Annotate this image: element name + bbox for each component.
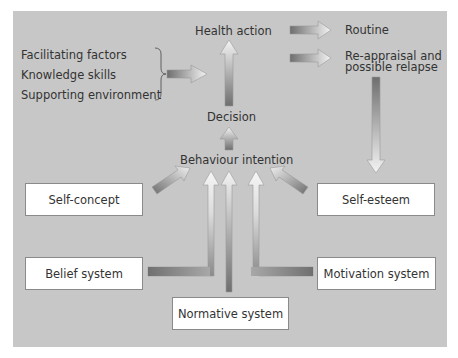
belief-connector-bar [148,267,210,276]
label-reappraisal-line2: possible relapse [345,60,438,74]
belief-system-label: Belief system [45,267,123,281]
factor-supporting-environment: Supporting environment [21,88,161,102]
factor-knowledge-skills: Knowledge skills [21,68,116,82]
box-motivation-system: Motivation system [317,257,436,290]
box-normative-system: Normative system [172,297,289,330]
label-routine: Routine [345,23,389,37]
box-self-esteem: Self-esteem [317,183,435,216]
arrow-self-esteem-to-intention [270,166,308,194]
arrow-to-routine [290,21,331,39]
motivation-connector-bar [251,267,313,276]
arrow-normative-system-to-intention [221,171,237,292]
self-esteem-label: Self-esteem [342,193,410,207]
self-concept-label: Self-concept [49,193,120,207]
label-behaviour-intention: Behaviour intention [180,153,293,167]
arrow-self-concept-to-intention [152,166,190,194]
box-self-concept: Self-concept [25,183,143,216]
arrow-factors-to-health-action [167,65,207,83]
motivation-system-label: Motivation system [324,267,430,281]
arrow-reappraisal-to-self-esteem [367,77,385,173]
arrow-decision-to-health-action [220,40,238,106]
normative-system-label: Normative system [178,307,283,321]
label-health-action: Health action [195,24,272,38]
label-decision: Decision [207,110,256,124]
arrow-intention-to-decision [220,127,238,150]
arrow-to-reappraisal [290,49,331,67]
factor-facilitating: Facilitating factors [21,48,127,62]
box-belief-system: Belief system [25,257,143,290]
